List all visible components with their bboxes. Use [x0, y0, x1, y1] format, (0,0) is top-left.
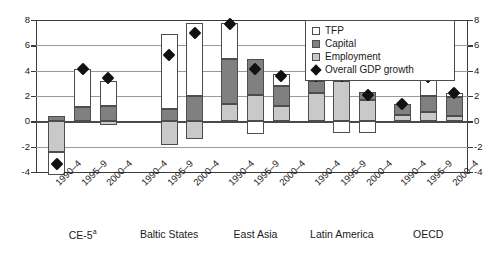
y-tick-right-0: 0 [474, 116, 496, 126]
bar-segment-capital [273, 86, 290, 106]
y-tickmark-left--2 [31, 147, 36, 148]
legend-swatch-capital [312, 40, 320, 48]
bar-segment-employment [221, 104, 238, 122]
legend-label-capital: Capital [325, 38, 356, 49]
bar-segment-employment [161, 121, 178, 145]
bar-segment-capital [74, 107, 91, 121]
bar-segment-tfp [100, 81, 117, 106]
bar-segment-tfp [161, 34, 178, 109]
y-tickmark-right-2 [468, 96, 473, 97]
legend-item-capital: Capital [312, 37, 448, 50]
bar-segment-tfp [247, 121, 264, 134]
bar-segment-employment [247, 95, 264, 122]
bar-stack [221, 20, 238, 172]
legend-label-employment: Employment [325, 51, 381, 62]
y-tick-left-2: 2 [8, 91, 30, 101]
y-tickmark-left--4 [31, 172, 36, 173]
y-tick-left-8: 8 [8, 15, 30, 25]
bar-segment-employment [48, 121, 65, 151]
bar-stack [161, 20, 178, 172]
y-tick-left-4: 4 [8, 66, 30, 76]
bar-segment-tfp [359, 121, 376, 132]
y-tick-left-6: 6 [8, 40, 30, 50]
bar-stack [48, 20, 65, 172]
group-label: OECD [368, 228, 488, 240]
bar-segment-capital [186, 96, 203, 121]
bar-segment-capital [48, 116, 65, 121]
y-tick-right--4: -4 [474, 167, 496, 177]
y-tickmark-right-0 [468, 121, 473, 122]
legend-item-employment: Employment [312, 50, 448, 63]
legend-item-gdp: Overall GDP growth [312, 63, 448, 76]
bar-segment-employment [100, 121, 117, 125]
legend-label-gdp: Overall GDP growth [325, 64, 414, 75]
bar-stack [273, 20, 290, 172]
bar-segment-employment [273, 106, 290, 121]
bar-segment-capital [308, 81, 325, 94]
bar-segment-employment [308, 93, 325, 121]
y-tickmark-left-2 [31, 96, 36, 97]
bar-segment-capital [161, 109, 178, 122]
bar-stack [100, 20, 117, 172]
y-tickmark-right-4 [468, 71, 473, 72]
bar-stack [74, 20, 91, 172]
bar-segment-employment [333, 81, 350, 122]
y-tick-left--4: -4 [8, 167, 30, 177]
y-tickmark-left-8 [31, 20, 36, 21]
y-tick-right-8: 8 [474, 15, 496, 25]
bar-segment-capital [446, 97, 463, 116]
y-tick-right-6: 6 [474, 40, 496, 50]
y-tickmark-left-6 [31, 45, 36, 46]
y-tick-right-4: 4 [474, 66, 496, 76]
y-tickmark-right--2 [468, 147, 473, 148]
y-tickmark-left-0 [31, 121, 36, 122]
bar-segment-tfp [333, 121, 350, 132]
y-tick-right--2: -2 [474, 142, 496, 152]
bar-segment-employment [394, 115, 411, 121]
bar-segment-capital [221, 59, 238, 103]
y-tick-left--2: -2 [8, 142, 30, 152]
legend-label-tfp: TFP [325, 25, 344, 36]
bar-segment-capital [420, 96, 437, 112]
bar-segment-employment [446, 116, 463, 121]
bar-segment-capital [100, 106, 117, 121]
y-tick-left-0: 0 [8, 116, 30, 126]
legend-item-tfp: TFP [312, 24, 448, 37]
bar-stack [247, 20, 264, 172]
y-tickmark-right-8 [468, 20, 473, 21]
chart-legend: TFP Capital Employment Overall GDP growt… [305, 20, 455, 81]
y-tick-right-2: 2 [474, 91, 496, 101]
bar-stack [186, 20, 203, 172]
chart-container: -4-202468 -4-202468 TFP Capital Employme… [0, 0, 504, 258]
bar-segment-employment [359, 100, 376, 122]
legend-swatch-employment [312, 53, 320, 61]
legend-swatch-tfp [312, 27, 320, 35]
y-tickmark-right-6 [468, 45, 473, 46]
bar-segment-employment [186, 121, 203, 139]
bar-segment-employment [420, 112, 437, 121]
legend-marker-diamond-icon [310, 64, 321, 75]
y-tickmark-left-4 [31, 71, 36, 72]
